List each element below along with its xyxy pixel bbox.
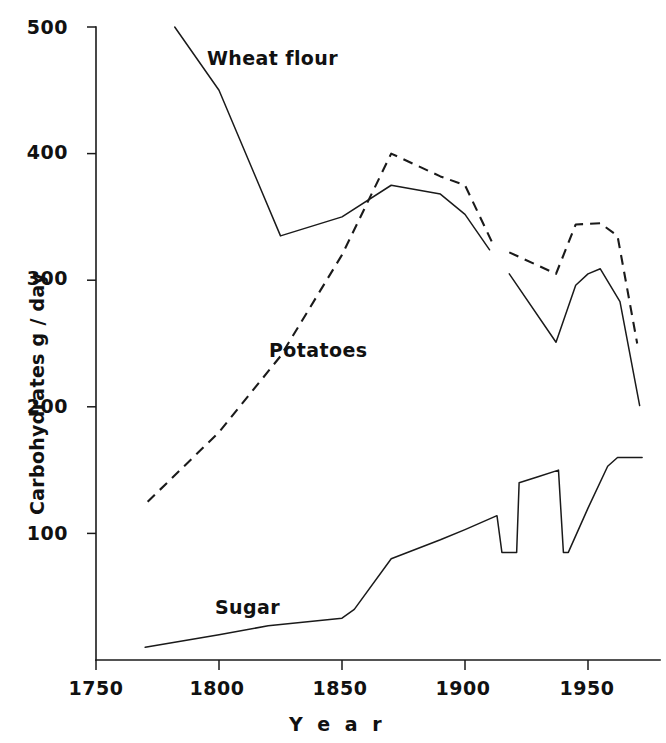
series-line-potatoes-seg2 (509, 223, 637, 343)
y-tick-label-100: 100 (6, 522, 68, 544)
chart-plot-area (0, 0, 666, 743)
y-tick-label-400: 400 (6, 141, 68, 163)
chart-figure: 500 400 300 200 100 1750 1800 1850 1900 … (0, 0, 666, 743)
x-axis-title: Y e a r (289, 713, 386, 735)
y-axis-title: Carbohydrates g / day (26, 272, 48, 515)
x-tick-label-1950: 1950 (547, 677, 627, 699)
x-tick-label-1800: 1800 (177, 677, 257, 699)
series-label-potatoes: Potatoes (269, 339, 367, 361)
x-tick-label-1850: 1850 (300, 677, 380, 699)
y-tick-label-500: 500 (6, 16, 68, 38)
axes-group (87, 27, 660, 670)
series-line-wheat-flour-seg2 (509, 269, 639, 406)
x-tick-label-1900: 1900 (423, 677, 503, 699)
x-tick-label-1750: 1750 (56, 677, 136, 699)
data-series-group (145, 27, 642, 647)
series-line-sugar (145, 457, 642, 647)
series-label-wheat-flour: Wheat flour (207, 47, 338, 69)
series-line-potatoes-seg1 (148, 154, 492, 502)
series-label-sugar: Sugar (215, 596, 280, 618)
